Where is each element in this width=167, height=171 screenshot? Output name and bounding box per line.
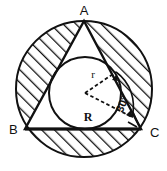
geometry-canvas: A B C r R 30°	[0, 0, 167, 171]
circumradius-label: R	[84, 110, 93, 124]
vertex-label-b: B	[9, 122, 18, 137]
inradius-label: r	[91, 68, 95, 80]
vertex-label-c: C	[150, 125, 159, 140]
geometry-figure: A B C r R 30°	[0, 0, 167, 171]
vertex-label-a: A	[80, 3, 89, 18]
